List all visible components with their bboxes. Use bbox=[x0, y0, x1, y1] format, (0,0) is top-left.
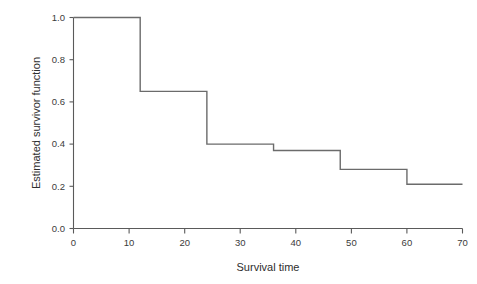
x-tick-label: 60 bbox=[402, 237, 413, 248]
x-tick-labels: 0 10 20 30 40 50 60 70 bbox=[71, 237, 468, 248]
x-tick-label: 40 bbox=[291, 237, 302, 248]
x-tick-label: 0 bbox=[71, 237, 76, 248]
y-tick-label: 0.0 bbox=[52, 223, 65, 234]
x-tick-label: 20 bbox=[179, 237, 190, 248]
x-tick-label: 70 bbox=[457, 237, 468, 248]
y-tick-label: 0.4 bbox=[52, 138, 65, 149]
x-tick-label: 30 bbox=[235, 237, 246, 248]
y-axis-title: Estimated survivor function bbox=[30, 57, 42, 189]
y-tick-labels: 0.0 0.2 0.4 0.6 0.8 1.0 bbox=[52, 12, 65, 234]
survival-plot: 0.0 0.2 0.4 0.6 0.8 1.0 0 10 20 30 40 50… bbox=[0, 0, 477, 284]
survival-step-curve bbox=[74, 18, 463, 185]
y-tick-group bbox=[70, 18, 74, 229]
figure-canvas: 0.0 0.2 0.4 0.6 0.8 1.0 0 10 20 30 40 50… bbox=[0, 0, 477, 284]
x-tick-group bbox=[74, 229, 463, 234]
y-tick-label: 0.6 bbox=[52, 96, 65, 107]
x-tick-label: 50 bbox=[346, 237, 357, 248]
y-tick-label: 1.0 bbox=[52, 12, 65, 23]
y-tick-label: 0.8 bbox=[52, 54, 65, 65]
x-tick-label: 10 bbox=[124, 237, 135, 248]
y-tick-label: 0.2 bbox=[52, 181, 65, 192]
x-axis-title: Survival time bbox=[237, 261, 300, 273]
